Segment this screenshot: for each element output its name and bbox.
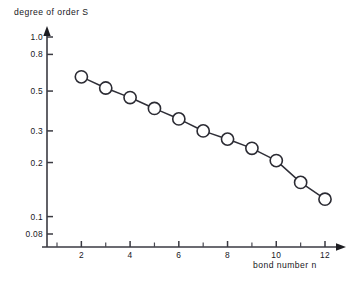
x-tick-label: 4 <box>128 250 133 260</box>
y-axis-title: degree of order S <box>14 7 89 17</box>
chart-figure: 0.080.10.20.30.50.81.0 24681012 degree o… <box>0 0 357 284</box>
data-line-segment <box>136 100 149 106</box>
data-point-marker[interactable] <box>148 102 160 114</box>
x-tick-label: 2 <box>79 250 84 260</box>
data-point-marker[interactable] <box>319 193 331 205</box>
data-line-segment <box>281 165 296 179</box>
x-tick-label: 10 <box>271 250 281 260</box>
data-line-segment <box>111 90 124 95</box>
data-line-segment <box>257 151 270 158</box>
y-tick-label: 0.8 <box>30 49 43 59</box>
y-axis-arrow-icon <box>43 26 50 36</box>
y-axis-ticks <box>47 37 53 234</box>
x-axis-tick-labels: 24681012 <box>79 250 330 260</box>
x-axis-arrow-icon <box>336 243 346 250</box>
data-point-marker[interactable] <box>197 125 209 137</box>
y-tick-label: 0.2 <box>30 158 43 168</box>
y-tick-label: 0.3 <box>30 126 43 136</box>
x-axis-title: bond number n <box>253 260 317 270</box>
y-tick-label: 0.1 <box>30 212 43 222</box>
data-point-marker[interactable] <box>221 133 233 145</box>
y-tick-label: 1.0 <box>30 32 43 42</box>
data-point-marker[interactable] <box>75 71 87 83</box>
data-point-marker[interactable] <box>246 142 258 154</box>
data-line-segment <box>209 133 222 137</box>
y-tick-label: 0.5 <box>30 86 43 96</box>
line-chart-plot: 0.080.10.20.30.50.81.0 24681012 degree o… <box>0 0 357 284</box>
y-axis-tick-labels: 0.080.10.20.30.50.81.0 <box>25 32 43 239</box>
y-axis-group <box>43 26 50 247</box>
data-point-marker[interactable] <box>270 155 282 167</box>
data-line-segment <box>87 79 100 85</box>
data-line-segment <box>233 141 246 146</box>
data-line-segment <box>160 111 173 117</box>
x-tick-label: 8 <box>225 250 230 260</box>
data-point-marker[interactable] <box>173 113 185 125</box>
data-line-segment <box>306 186 320 196</box>
x-tick-label: 6 <box>176 250 181 260</box>
y-tick-label: 0.08 <box>25 229 43 239</box>
data-line-segment <box>184 122 197 129</box>
data-point-marker[interactable] <box>124 91 136 103</box>
data-point-marker[interactable] <box>295 176 307 188</box>
data-point-marker[interactable] <box>100 82 112 94</box>
x-tick-label: 12 <box>320 250 330 260</box>
